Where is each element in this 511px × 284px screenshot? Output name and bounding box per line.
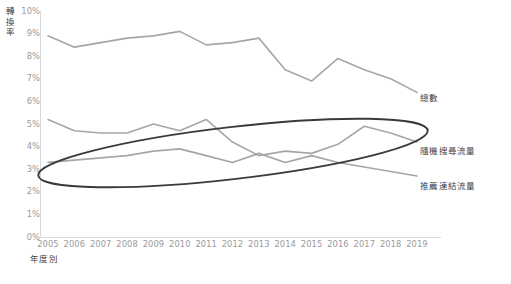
series-label-1: 隨機搜尋流量 — [420, 144, 476, 156]
series-line-2 — [48, 149, 417, 176]
x-axis-tick-labels: 2005200620072008200920102011201220132014… — [0, 239, 511, 253]
series-line-1 — [48, 119, 417, 155]
conversion-rate-line-chart: 轉 換 率 0%1%2%3%4%5%6%7%8%9%10% 2005200620… — [0, 0, 511, 284]
x-tick-label: 2019 — [402, 239, 432, 249]
x-axis-title: 年度別 — [30, 252, 58, 264]
series-line-0 — [48, 31, 417, 92]
highlight-ellipse — [35, 105, 430, 202]
series-label-2: 推薦連結流量 — [420, 179, 476, 191]
series-label-0: 總數 — [420, 91, 439, 103]
